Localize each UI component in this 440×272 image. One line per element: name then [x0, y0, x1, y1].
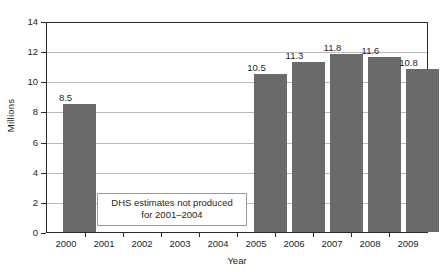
x-tick-label-2004: 2004	[199, 239, 237, 249]
bar-value-2005: 10.5	[238, 63, 275, 73]
bar-value-2008: 11.6	[352, 46, 389, 56]
bar-2007	[330, 54, 363, 232]
x-tick-label-2005: 2005	[237, 239, 275, 249]
y-tick-label: 12	[10, 47, 38, 57]
y-tick-label: 0	[10, 228, 38, 238]
missing-data-annotation: DHS estimates not produced for 2001–2004	[97, 193, 247, 226]
bar-value-2000: 8.5	[47, 93, 84, 103]
x-tick-label-2003: 2003	[161, 239, 199, 249]
x-tick-label-2000: 2000	[47, 239, 85, 249]
y-axis-tick	[41, 233, 46, 234]
x-axis-tick	[123, 233, 124, 237]
x-axis-tick	[237, 233, 238, 237]
x-axis-tick	[389, 233, 390, 237]
annotation-line-2: for 2001–2004	[104, 209, 240, 221]
x-tick-label-2001: 2001	[85, 239, 123, 249]
y-tick-label: 8	[10, 107, 38, 117]
x-axis-tick	[351, 233, 352, 237]
x-tick-label-2009: 2009	[389, 239, 427, 249]
bar-2006	[292, 62, 325, 232]
x-tick-label-2008: 2008	[351, 239, 389, 249]
bar-2009	[406, 69, 439, 232]
x-tick-label-2006: 2006	[275, 239, 313, 249]
x-axis-title: Year	[46, 255, 428, 266]
x-axis-tick	[199, 233, 200, 237]
bar-value-2006: 11.3	[276, 51, 313, 61]
bar-2005	[254, 74, 287, 232]
bar-chart-figure: Millions 14 12 10 8 6 4 2 0 DHS estimate…	[0, 0, 440, 272]
bar-2008	[368, 57, 401, 232]
bar-value-2009: 10.8	[390, 58, 427, 68]
annotation-line-1: DHS estimates not produced	[104, 197, 240, 209]
y-tick-label: 10	[10, 77, 38, 87]
x-tick-label-2007: 2007	[313, 239, 351, 249]
y-tick-label: 2	[10, 198, 38, 208]
bar-2000	[63, 104, 96, 232]
bar-value-2007: 11.8	[314, 43, 351, 53]
y-tick-label: 6	[10, 138, 38, 148]
x-axis-tick	[161, 233, 162, 237]
y-tick-label: 4	[10, 168, 38, 178]
x-axis-tick	[313, 233, 314, 237]
clipped-caption-fragment	[0, 0, 440, 3]
x-tick-label-2002: 2002	[123, 239, 161, 249]
x-axis-tick	[85, 233, 86, 237]
y-tick-label: 14	[10, 17, 38, 27]
x-axis-tick	[275, 233, 276, 237]
y-axis: 14 12 10 8 6 4 2 0	[0, 0, 38, 272]
